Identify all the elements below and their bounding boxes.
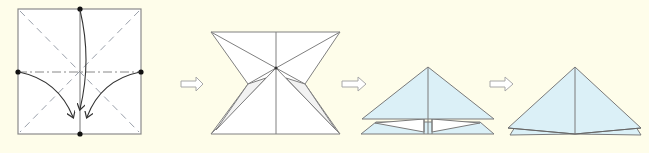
origami-diagram xyxy=(0,0,649,153)
step-4-waterbomb-base xyxy=(508,67,641,135)
step-arrow-3-icon xyxy=(490,77,513,91)
dot-bottom xyxy=(77,131,82,136)
step-3-layered-triangle xyxy=(361,67,494,134)
step-arrow-2-icon xyxy=(342,77,366,91)
step-arrow-1-icon xyxy=(181,77,203,91)
step-2-hourglass xyxy=(211,32,340,134)
step-1-square xyxy=(15,6,143,136)
